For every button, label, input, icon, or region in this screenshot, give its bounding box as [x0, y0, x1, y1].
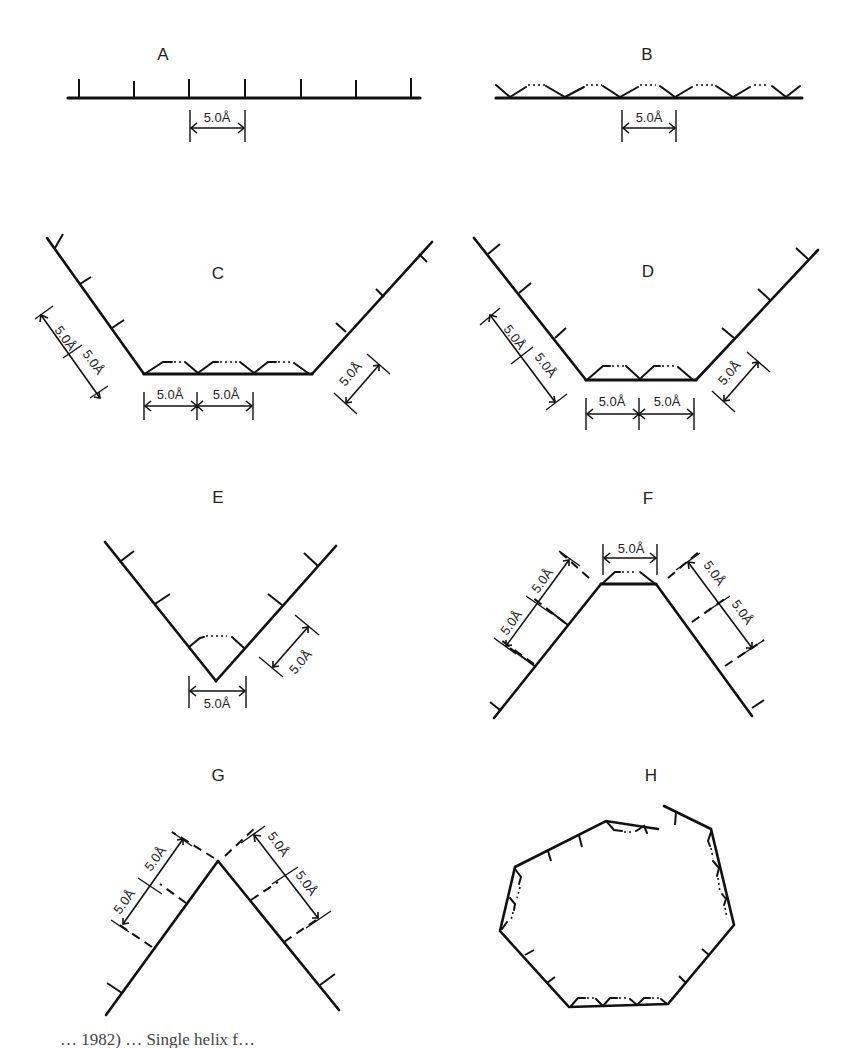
left-strand — [105, 542, 216, 681]
left-strand — [494, 584, 601, 718]
panel-label-c: C — [212, 264, 224, 283]
panel-label-g: G — [211, 766, 224, 785]
dimension-label: 5.0Å — [654, 394, 681, 409]
panel-d: D 5.0Å 5.0Å — [474, 238, 818, 430]
figure-diagram: A 5.0Å B — [0, 0, 852, 1048]
dimension-label: 5.0Å — [80, 347, 108, 378]
dimension-marker-right: 5.0Å — [712, 352, 770, 412]
right-strand — [216, 546, 336, 681]
panel-a: A 5.0Å — [68, 45, 420, 142]
panel-label-b: B — [641, 45, 652, 64]
dimension-label: 5.0Å — [618, 541, 645, 556]
right-strand — [312, 242, 432, 374]
dimension-label: 5.0Å — [286, 647, 315, 677]
h-bond-arcs — [588, 366, 692, 379]
panel-g: G 5.0Å 5.0Å 5.0Å 5.0Å — [106, 766, 339, 1015]
panel-f: F 5.0Å — [490, 489, 764, 718]
dimension-marker-top: 5.0Å — [603, 541, 657, 575]
dimension-label: 5.0Å — [293, 868, 321, 899]
left-strand — [106, 861, 218, 1015]
panel-c: C 5.0Å 5.0Å — [35, 234, 432, 420]
panel-e: E 5.0Å 5.0Å — [105, 488, 336, 711]
dimension-label: 5.0Å — [157, 387, 184, 402]
dimension-marker-left: 5.0Å 5.0Å — [110, 832, 192, 932]
dimension-label: 5.0Å — [110, 886, 138, 917]
h-bond-arc — [189, 636, 244, 648]
dimension-label: 5.0Å — [528, 565, 556, 596]
dimension-marker-right: 5.0Å 5.0Å — [241, 826, 331, 928]
dimension-marker-bottom: 5.0Å 5.0Å — [144, 387, 253, 420]
dimension-label: 5.0Å — [213, 387, 240, 402]
dimension-marker-right: 5.0Å — [334, 354, 390, 414]
h-bond-zigzag — [496, 85, 800, 97]
dimension-marker-bottom: 5.0Å 5.0Å — [586, 394, 694, 430]
dimension-label: 5.0Å — [501, 322, 529, 353]
dimension-label: 5.0Å — [204, 696, 231, 711]
left-strand — [474, 238, 586, 380]
dimension-marker: 5.0Å — [190, 110, 245, 142]
h-bond-arcs — [502, 822, 727, 1006]
dimension-marker-left: 5.0Å 5.0Å — [494, 551, 580, 654]
panel-b: B 5.0Å — [496, 45, 802, 142]
h-bond-arcs — [146, 362, 308, 373]
dimension-label: 5.0Å — [141, 843, 169, 874]
panel-label-d: D — [642, 262, 654, 281]
dimension-marker: 5.0Å — [622, 110, 676, 142]
right-strand — [218, 861, 339, 1010]
panel-label-h: H — [645, 766, 657, 785]
closed-loop-backbone — [500, 806, 734, 1007]
dimension-marker-left: 5.0Å 5.0Å — [480, 308, 567, 410]
dimension-label: 5.0Å — [497, 607, 525, 638]
dimension-label: 5.0Å — [336, 359, 365, 389]
panel-label-f: F — [643, 489, 653, 508]
figure-caption-partial: … 1982) … Single helix f… — [60, 1030, 840, 1048]
side-chain-ticks — [79, 78, 411, 98]
panel-h: H — [500, 766, 734, 1007]
dimension-label: 5.0Å — [204, 110, 231, 125]
dimension-label: 5.0Å — [636, 110, 663, 125]
panel-label-e: E — [212, 488, 223, 507]
dimension-label: 5.0Å — [599, 394, 626, 409]
dimension-marker-left: 5.0Å 5.0Å — [35, 306, 108, 398]
dimension-marker-right: 5.0Å 5.0Å — [676, 553, 764, 656]
panel-label-a: A — [157, 45, 169, 64]
